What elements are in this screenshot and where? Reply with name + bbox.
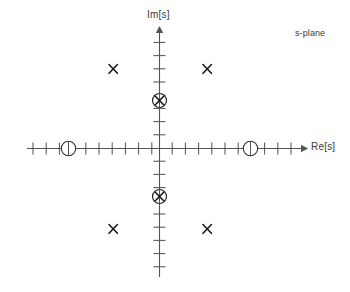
real-axis-label: Re[s] bbox=[311, 142, 335, 152]
pole-marker-lower-right bbox=[203, 225, 211, 234]
pole-marker-upper-left bbox=[109, 65, 117, 74]
real-axis-arrowhead bbox=[301, 145, 308, 152]
coincident-pole-zero-upper bbox=[153, 94, 167, 108]
pole-marker-upper-right bbox=[203, 65, 211, 74]
pole-marker-lower-left bbox=[109, 225, 117, 234]
imaginary-axis-group bbox=[154, 26, 166, 277]
coincident-pole-zero-lower bbox=[153, 190, 167, 204]
imaginary-axis-arrowhead bbox=[156, 26, 163, 33]
s-plane-annotation: s-plane bbox=[295, 29, 325, 38]
pole-zero-plot-canvas bbox=[0, 0, 350, 292]
imaginary-axis-label: Im[s] bbox=[147, 10, 170, 20]
s-plane-figure: Im[s] Re[s] s-plane bbox=[0, 0, 350, 292]
